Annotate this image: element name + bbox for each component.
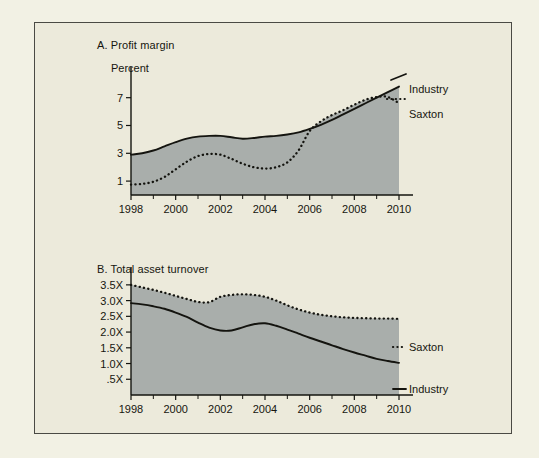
panel-profit-margin: A. Profit margin Percent 135719982000200…: [35, 23, 513, 235]
panel-b-legend-industry: Industry: [409, 383, 448, 395]
svg-text:2010: 2010: [387, 403, 411, 415]
figure-page: A. Profit margin Percent 135719982000200…: [0, 0, 539, 458]
svg-text:3.0X: 3.0X: [100, 295, 123, 307]
svg-text:2008: 2008: [342, 403, 366, 415]
svg-text:2000: 2000: [163, 203, 187, 215]
svg-text:2.0X: 2.0X: [100, 326, 123, 338]
svg-text:1998: 1998: [119, 203, 143, 215]
svg-text:2000: 2000: [163, 403, 187, 415]
svg-text:5: 5: [117, 119, 123, 131]
svg-text:1998: 1998: [119, 403, 143, 415]
svg-text:3.5X: 3.5X: [100, 279, 123, 291]
panel-a-legend-saxton: Saxton: [409, 108, 443, 120]
panel-b-legend-saxton: Saxton: [409, 341, 443, 353]
svg-text:2010: 2010: [387, 203, 411, 215]
svg-text:1.5X: 1.5X: [100, 342, 123, 354]
svg-text:2004: 2004: [253, 203, 277, 215]
panel-a-plot: 13571998200020022004200620082010: [35, 23, 513, 235]
svg-text:2.5X: 2.5X: [100, 310, 123, 322]
svg-text:2002: 2002: [208, 203, 232, 215]
svg-text:2002: 2002: [208, 403, 232, 415]
svg-text:3: 3: [117, 147, 123, 159]
svg-text:2004: 2004: [253, 403, 277, 415]
svg-text:2006: 2006: [297, 203, 321, 215]
panel-total-asset-turnover: B. Total asset turnover .5X1.0X1.5X2.0X2…: [35, 235, 513, 435]
panel-a-legend-industry: Industry: [409, 83, 448, 95]
panel-b-plot: .5X1.0X1.5X2.0X2.5X3.0X3.5X1998200020022…: [35, 235, 513, 435]
svg-text:.5X: .5X: [106, 373, 123, 385]
svg-text:7: 7: [117, 92, 123, 104]
svg-text:2008: 2008: [342, 203, 366, 215]
figure-frame: A. Profit margin Percent 135719982000200…: [34, 22, 512, 434]
svg-text:1.0X: 1.0X: [100, 358, 123, 370]
svg-text:2006: 2006: [297, 403, 321, 415]
svg-text:1: 1: [117, 175, 123, 187]
